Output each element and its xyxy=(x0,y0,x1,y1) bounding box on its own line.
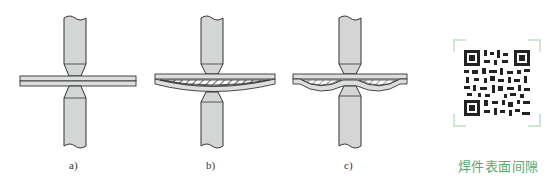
qr-caption: 焊件表面间隙 xyxy=(444,156,552,175)
panel-b-diagram xyxy=(155,16,275,148)
panel-c-diagram xyxy=(293,16,407,148)
panel-a-label: a) xyxy=(69,159,78,171)
qr-code[interactable] xyxy=(452,38,542,128)
panel-b-label: b) xyxy=(206,159,215,171)
panel-a-diagram xyxy=(20,16,136,148)
qr-code-icon xyxy=(452,38,542,128)
panel-c-label: c) xyxy=(344,159,353,171)
